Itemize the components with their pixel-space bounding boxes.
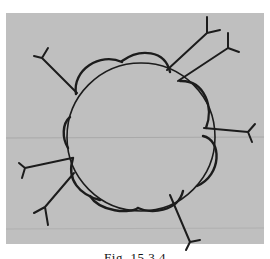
figure-caption: Fig. 15.3.4 <box>0 250 270 259</box>
diagram-figure <box>0 0 270 259</box>
